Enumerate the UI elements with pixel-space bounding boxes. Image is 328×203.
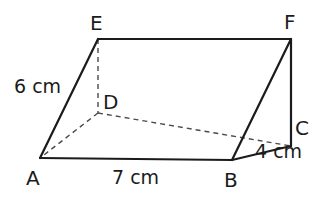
edge-B-A-solid (40, 158, 232, 160)
vertex-label-e: E (90, 13, 103, 33)
edge-A-E-solid (40, 39, 98, 158)
visible-edges-group (40, 39, 291, 160)
edge-D-A-dashed (40, 113, 98, 158)
vertex-label-d: D (103, 92, 118, 112)
prism-figure: A B C D E F 6 cm 7 cm 4 cm (0, 0, 328, 203)
prism-drawing (0, 0, 328, 203)
vertex-label-c: C (295, 118, 309, 138)
vertex-label-b: B (224, 170, 238, 190)
hidden-edges-group (40, 39, 291, 158)
measure-label-bc: 4 cm (255, 142, 302, 161)
vertex-label-a: A (26, 168, 40, 188)
vertex-label-f: F (284, 12, 296, 32)
measure-label-ab: 7 cm (112, 168, 159, 187)
measure-label-ae: 6 cm (14, 77, 61, 96)
